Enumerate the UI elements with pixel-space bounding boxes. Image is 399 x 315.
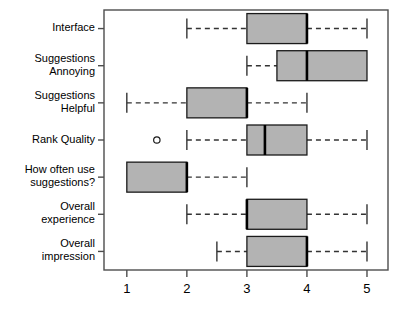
- box-rect: [277, 51, 367, 81]
- outlier-point: [154, 137, 160, 143]
- box-group: [187, 14, 367, 44]
- boxplot-canvas: [0, 0, 399, 315]
- box-rect: [247, 14, 307, 44]
- box-rect: [127, 162, 187, 192]
- box-group: [247, 51, 367, 81]
- boxplot-figure: InterfaceSuggestions AnnoyingSuggestions…: [0, 0, 399, 315]
- box-rect: [247, 199, 307, 229]
- box-group: [154, 125, 367, 155]
- box-group: [127, 162, 247, 192]
- box-group: [217, 236, 367, 266]
- box-rect: [187, 88, 247, 118]
- box-rect: [247, 125, 307, 155]
- box-rect: [247, 236, 307, 266]
- box-group: [127, 88, 307, 118]
- box-group: [187, 199, 367, 229]
